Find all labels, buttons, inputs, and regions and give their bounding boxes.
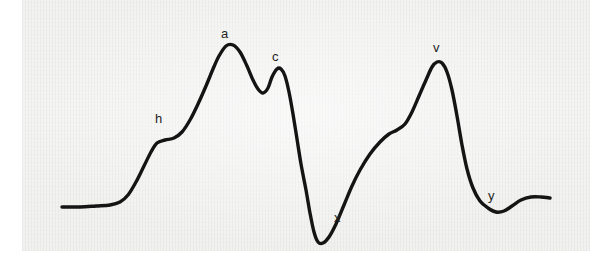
wave-label-c: c [272,50,279,63]
jvp-trace-line [62,44,550,243]
waveform-canvas [0,0,612,275]
wave-label-x: x [334,211,341,224]
wave-label-h: h [155,112,162,125]
wave-label-a: a [221,27,228,40]
jvp-waveform-figure: hacxvy [0,0,612,275]
wave-label-y: y [488,189,495,202]
wave-label-v: v [433,41,440,54]
